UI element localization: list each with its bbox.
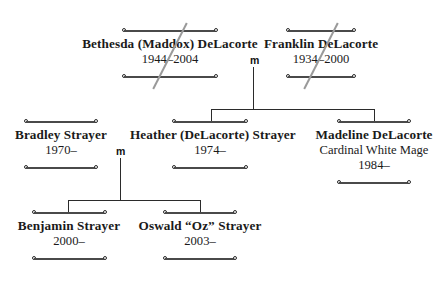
- rule-cap-right: [94, 165, 98, 169]
- marriage-descent-line-2: [120, 158, 121, 200]
- rule-bar: [174, 167, 246, 169]
- rule-cap-right: [103, 256, 107, 260]
- rule-bar: [26, 121, 96, 123]
- rule-cap-right: [233, 256, 237, 260]
- rule-heather-bottom: [172, 165, 248, 170]
- person-oswald: Oswald “Oz” Strayer 2003–: [135, 218, 265, 249]
- rule-bar: [339, 121, 409, 123]
- rule-bethesda-top: [122, 28, 218, 33]
- person-name: Franklin DeLacorte: [251, 36, 391, 52]
- person-title: Cardinal White Mage: [309, 143, 439, 158]
- person-name: Heather (DeLacorte) Strayer: [130, 127, 290, 143]
- rule-cap-right: [233, 210, 237, 214]
- rule-bethesda-bottom: [122, 74, 218, 79]
- rule-bar: [124, 30, 216, 32]
- marriage-descent-line-1: [253, 67, 254, 109]
- rule-cap-right: [352, 28, 356, 32]
- rule-bar: [124, 76, 216, 78]
- person-name: Benjamin Strayer: [9, 218, 129, 234]
- sibling-bar-gen3: [68, 200, 201, 201]
- rule-bar: [339, 182, 409, 184]
- rule-benjamin-top: [32, 210, 107, 215]
- person-benjamin: Benjamin Strayer 2000–: [9, 218, 129, 249]
- rule-cap-right: [407, 180, 411, 184]
- rule-cap-right: [94, 119, 98, 123]
- rule-bradley-bottom: [24, 165, 98, 170]
- rule-bar: [34, 258, 105, 260]
- person-dates: 1984–: [309, 158, 439, 173]
- person-dates: 2003–: [135, 234, 265, 249]
- person-dates: 1970–: [1, 143, 121, 158]
- person-heather: Heather (DeLacorte) Strayer 1974–: [130, 127, 290, 158]
- person-dates: 1974–: [130, 143, 290, 158]
- marriage-marker-bradley-heather: m: [116, 146, 125, 156]
- rule-benjamin-bottom: [32, 256, 107, 261]
- rule-oswald-top: [163, 210, 237, 215]
- rule-bar: [26, 167, 96, 169]
- person-name: Madeline DeLacorte: [309, 127, 439, 143]
- rule-cap-right: [103, 210, 107, 214]
- rule-cap-right: [244, 119, 248, 123]
- rule-bradley-top: [24, 119, 98, 124]
- rule-bar: [34, 212, 105, 214]
- sibling-bar-gen2: [211, 109, 375, 110]
- rule-cap-right: [407, 119, 411, 123]
- rule-heather-top: [172, 119, 248, 124]
- rule-cap-right: [244, 165, 248, 169]
- rule-cap-right: [214, 28, 218, 32]
- rule-bar: [288, 30, 354, 32]
- rule-franklin-top: [286, 28, 356, 33]
- person-madeline: Madeline DeLacorte Cardinal White Mage 1…: [309, 127, 439, 173]
- person-name: Bethesda (Maddox) DeLacorte: [70, 36, 270, 52]
- person-name: Oswald “Oz” Strayer: [135, 218, 265, 234]
- marriage-marker-bethesda-franklin: m: [250, 55, 259, 65]
- person-bradley: Bradley Strayer 1970–: [1, 127, 121, 158]
- rule-cap-right: [352, 74, 356, 78]
- rule-franklin-bottom: [286, 74, 356, 79]
- rule-bar: [288, 76, 354, 78]
- family-tree-diagram: Bethesda (Maddox) DeLacorte 1944–2004 Fr…: [0, 0, 447, 281]
- rule-bar: [165, 258, 235, 260]
- person-dates: 2000–: [9, 234, 129, 249]
- person-name: Bradley Strayer: [1, 127, 121, 143]
- rule-oswald-bottom: [163, 256, 237, 261]
- rule-madeline-top: [337, 119, 411, 124]
- rule-bar: [165, 212, 235, 214]
- rule-cap-right: [214, 74, 218, 78]
- rule-madeline-bottom: [337, 180, 411, 185]
- rule-bar: [174, 121, 246, 123]
